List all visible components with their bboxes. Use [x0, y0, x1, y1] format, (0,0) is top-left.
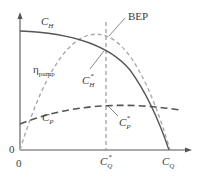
y-axis-arrow-icon	[18, 12, 23, 19]
head-curve-label: CH	[41, 15, 54, 30]
origin-y-label: 0	[9, 143, 15, 155]
bep-leader-line	[109, 18, 125, 36]
x-axis-arrow-icon	[185, 148, 192, 153]
efficiency-curve	[20, 34, 170, 150]
efficiency-curve-label: ηpump	[33, 63, 55, 78]
origin-x-label: 0	[16, 157, 22, 169]
power-star-label: CP*	[119, 114, 131, 131]
head-star-label: CH*	[82, 72, 95, 89]
bep-label: BEP	[128, 10, 148, 22]
flow-star-label: CQ*	[100, 153, 112, 170]
flow-axis-label: CQ	[162, 155, 174, 170]
pump-performance-diagram: CH ηpump BEP CH* CP CP* CQ* CQ 0 0	[0, 0, 201, 183]
head-star-leader-line	[90, 51, 104, 69]
power-star-leader-line	[107, 105, 118, 116]
